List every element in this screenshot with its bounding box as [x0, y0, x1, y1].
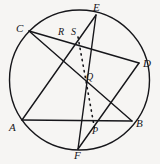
geometry-figure: C E D B F A R S Q P: [0, 0, 160, 164]
point-label-q: Q: [86, 72, 93, 82]
point-label-b: B: [136, 118, 143, 129]
point-label-a: A: [9, 122, 16, 133]
point-label-f: F: [74, 150, 81, 161]
chord-c-d: [29, 31, 139, 63]
point-label-d: D: [143, 58, 151, 69]
point-label-r: R: [58, 27, 64, 37]
figure-canvas: [0, 0, 160, 164]
point-label-e: E: [93, 2, 100, 13]
chord-a-b: [22, 120, 132, 121]
point-label-c: C: [16, 23, 23, 34]
chord-c-b: [29, 31, 132, 121]
chord-group: [22, 15, 139, 149]
point-label-p: P: [92, 126, 98, 136]
point-label-s: S: [71, 27, 76, 37]
